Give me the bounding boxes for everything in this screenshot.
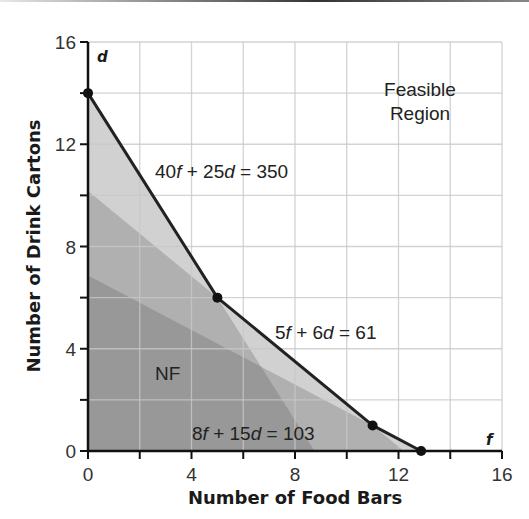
x-variable-label: f bbox=[486, 431, 495, 449]
y-tick-label: 8 bbox=[65, 237, 76, 258]
x-tick-label: 8 bbox=[290, 464, 301, 485]
x-tick-labels: 0481216 bbox=[83, 464, 513, 485]
y-tick-label: 12 bbox=[55, 134, 76, 155]
constraint-label-1: 5f + 6d = 61 bbox=[275, 322, 376, 343]
x-tick-label: 16 bbox=[491, 464, 512, 485]
y-tick-label: 4 bbox=[65, 339, 76, 360]
x-tick-label: 4 bbox=[186, 464, 197, 485]
y-variable-label: d bbox=[97, 48, 108, 66]
vertex-point bbox=[368, 420, 378, 430]
non-feasible-label: NF bbox=[155, 363, 180, 384]
constraint-label-2: 8f + 15d = 103 bbox=[192, 423, 315, 444]
feasible-region-label-line1: Feasible bbox=[384, 79, 456, 100]
y-tick-label: 0 bbox=[65, 441, 76, 462]
x-tick-label: 12 bbox=[388, 464, 409, 485]
x-tick-label: 0 bbox=[83, 464, 94, 485]
feasible-region-label-line2: Region bbox=[390, 103, 450, 124]
vertex-point bbox=[416, 446, 426, 456]
feasible-region-chart: 0481216 0481216 d f Number of Food Bars … bbox=[0, 0, 529, 519]
vertex-point bbox=[212, 293, 222, 303]
constraint-label-0: 40f + 25d = 350 bbox=[155, 161, 288, 182]
y-tick-label: 16 bbox=[55, 32, 76, 53]
shaded-regions bbox=[88, 93, 421, 451]
vertex-point bbox=[83, 88, 93, 98]
x-axis-title: Number of Food Bars bbox=[188, 487, 402, 508]
y-tick-labels: 0481216 bbox=[55, 32, 77, 462]
y-axis-title: Number of Drink Cartons bbox=[23, 119, 44, 372]
